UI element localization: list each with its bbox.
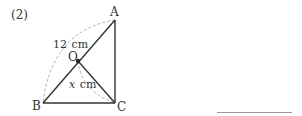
geometry-figure: (2) A B C O 12 cm x cm: [0, 0, 302, 116]
length-variable: x: [69, 78, 76, 91]
length-label-xcm: x cm: [69, 78, 97, 91]
length-number: 12: [53, 38, 67, 51]
vertex-label-o: O: [68, 50, 78, 64]
vertex-label-c: C: [117, 100, 126, 114]
vertex-label-b: B: [32, 99, 41, 113]
length-unit: cm: [72, 38, 89, 51]
length-unit: cm: [80, 78, 97, 91]
vertex-label-a: A: [109, 5, 119, 19]
length-label-12cm: 12 cm: [53, 38, 89, 51]
problem-number: (2): [11, 8, 28, 22]
